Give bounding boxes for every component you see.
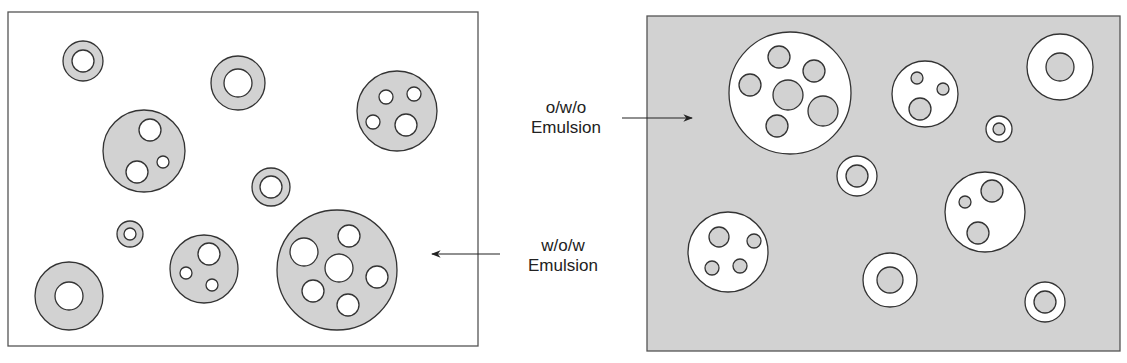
emulsion-diagram: [0, 0, 1127, 363]
owo-label: o/w/o Emulsion: [511, 98, 621, 138]
wow-label: w/o/w Emulsion: [508, 236, 618, 276]
owo-label-line2: Emulsion: [511, 118, 621, 138]
wow-emulsion-panel: [8, 12, 478, 346]
owo-emulsion-panel: [647, 16, 1120, 351]
wow-label-line2: Emulsion: [508, 256, 618, 276]
owo-label-line1: o/w/o: [511, 98, 621, 118]
wow-label-line1: w/o/w: [508, 236, 618, 256]
